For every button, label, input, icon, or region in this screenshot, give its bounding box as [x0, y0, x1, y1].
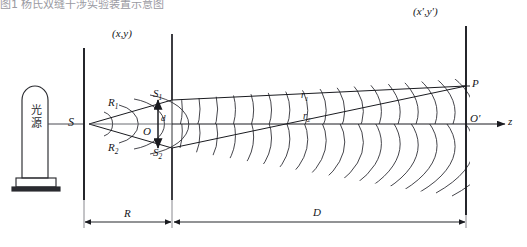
dimension-label-R: R: [124, 208, 131, 219]
screen-center-label-O-prime: O′: [470, 113, 480, 124]
ray-r1: [172, 86, 466, 100]
slit-label-S2: S2: [153, 147, 162, 161]
screen-point-label-P: P: [472, 78, 479, 89]
z-axis-label: z: [508, 116, 512, 127]
diagram-svg: [0, 0, 527, 247]
ray-label-R2: R2: [108, 142, 118, 156]
slit-plane-coordinate-label: (x,y): [112, 28, 132, 39]
slit-separation-label-d: d: [161, 114, 166, 123]
lamp-label: 光源: [29, 104, 41, 130]
ray-r2: [172, 86, 466, 148]
pinhole-label-S: S: [68, 116, 74, 128]
slit-label-S1: S1: [153, 88, 162, 102]
light-source-lamp: [12, 86, 60, 191]
screen-plane-coordinate-label: (x',y'): [413, 6, 438, 17]
ray-label-r1: r1: [301, 90, 308, 103]
slit-center-label-O: O: [143, 126, 151, 137]
figure-canvas: 图1 杨氏双缝干涉实验装置示意图: [0, 0, 527, 247]
wavefronts-lower-slit: [180, 100, 493, 196]
ray-label-R1: R1: [108, 97, 118, 111]
dimension-label-D: D: [313, 207, 321, 218]
ray-label-r2: r2: [303, 111, 310, 124]
